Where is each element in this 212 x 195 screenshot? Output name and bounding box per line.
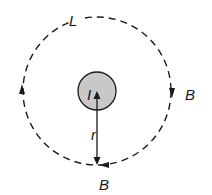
loop-arrow-left-icon — [19, 84, 25, 94]
loop-label: L — [69, 12, 77, 29]
current-label: I — [87, 86, 91, 103]
ampere-loop-diagram: L I r B B — [0, 0, 212, 195]
field-label-right: B — [185, 86, 195, 103]
loop-arrow-right-icon — [169, 88, 175, 98]
arrow-down-icon — [94, 157, 101, 165]
radius-label: r — [91, 126, 97, 143]
field-label-bottom: B — [99, 176, 109, 193]
loop-arrow-bottom-icon — [99, 162, 109, 168]
